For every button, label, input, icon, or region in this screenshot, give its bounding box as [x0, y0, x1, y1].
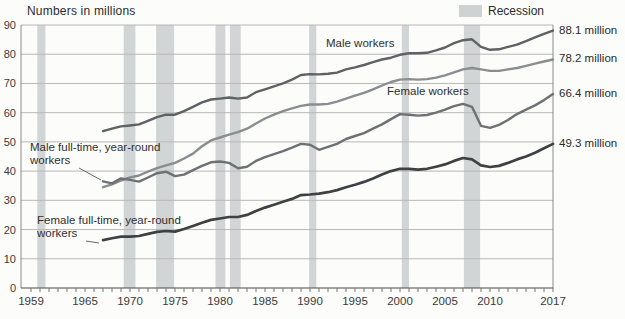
x-tick-label: 1959	[18, 295, 44, 307]
x-tick-label: 1975	[162, 295, 188, 307]
label-female-ftyr-line1: Female full-time, year-round	[37, 214, 181, 227]
label-female-ftyr-line2: workers	[37, 227, 181, 240]
y-tick-label: 70	[4, 77, 16, 89]
leader-line	[86, 241, 99, 243]
y-tick-label: 80	[4, 48, 16, 60]
y-tick-label: 50	[4, 136, 16, 148]
y-tick-label: 10	[4, 253, 16, 265]
end-label-female-ftyr: 49.3 million	[559, 137, 617, 149]
x-tick-label: 1995	[342, 295, 368, 307]
x-tick-label: 1970	[117, 295, 143, 307]
leader-line	[79, 168, 101, 180]
y-tick-label: 0	[10, 282, 16, 294]
y-tick-label: 40	[4, 165, 16, 177]
end-label-female-workers: 78.2 million	[559, 52, 617, 64]
y-tick-label: 60	[4, 107, 16, 119]
x-tick-label: 1990	[297, 295, 323, 307]
x-tick-label: 1980	[207, 295, 233, 307]
label-male-workers: Male workers	[326, 37, 394, 50]
x-tick-label: 2000	[387, 295, 413, 307]
end-label-male-workers: 88.1 million	[559, 24, 617, 36]
label-male-ftyr-workers: Male full-time, year-round workers	[30, 141, 160, 167]
y-tick-label: 30	[4, 194, 16, 206]
y-tick-label: 90	[4, 19, 16, 31]
x-tick-label: 2005	[432, 295, 458, 307]
end-label-male-ftyr: 66.4 million	[559, 87, 617, 99]
worker-numbers-figure: Numbers in millions Recession 0102030405…	[0, 0, 625, 319]
x-tick-label: 1965	[72, 295, 98, 307]
x-tick-label: 2017	[540, 295, 566, 307]
x-tick-label: 2010	[477, 295, 503, 307]
y-tick-label: 20	[4, 224, 16, 236]
label-male-ftyr-line2: workers	[30, 154, 160, 167]
label-female-ftyr-workers: Female full-time, year-round workers	[37, 214, 181, 240]
x-axis: 1959196519701975198019851990199520002005…	[18, 288, 566, 307]
label-female-workers: Female workers	[387, 85, 469, 98]
x-tick-label: 1985	[252, 295, 278, 307]
label-male-ftyr-line1: Male full-time, year-round	[30, 141, 160, 154]
